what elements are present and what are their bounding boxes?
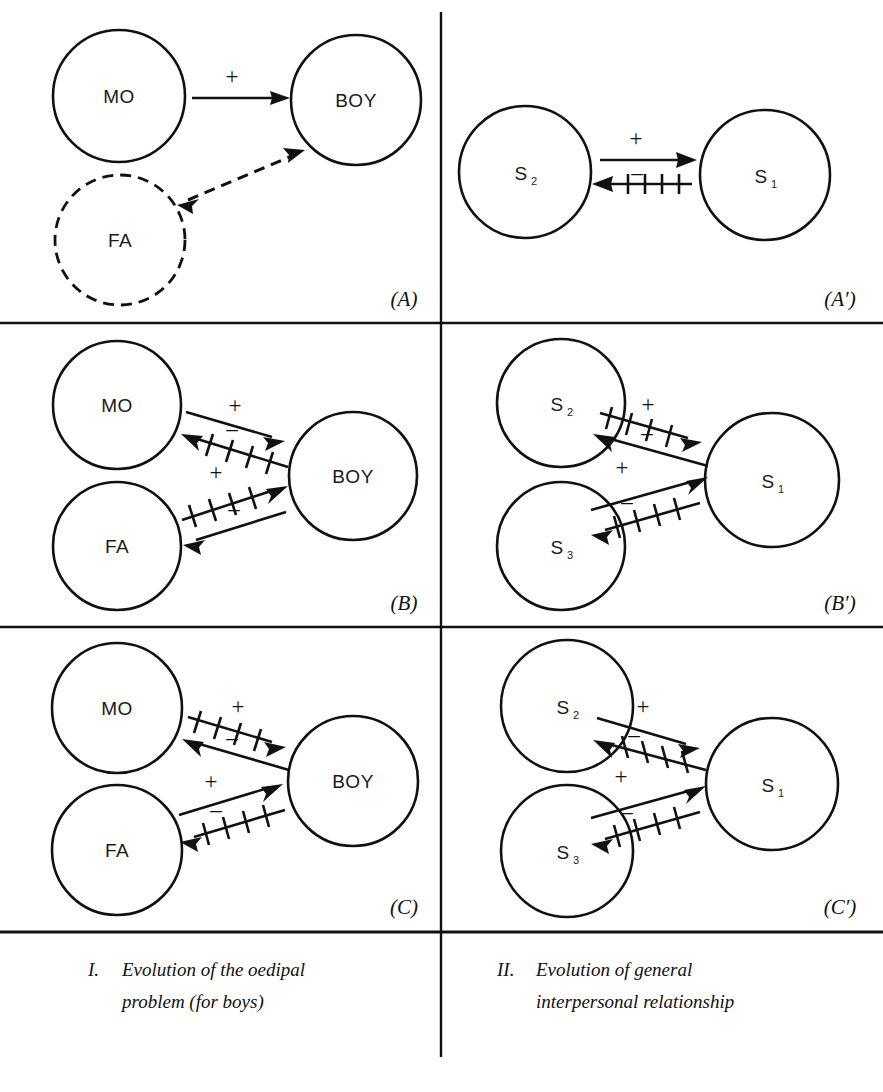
arrow-head	[592, 176, 613, 192]
node-boy[interactable]: BOY	[288, 716, 418, 846]
node-label: S	[556, 842, 569, 863]
arrow-head	[182, 739, 204, 757]
figure-canvas: MO BOY FA + (A) S 2	[0, 0, 883, 1092]
node-label: S	[556, 697, 569, 718]
panel-c: MO FA BOY + –	[52, 643, 418, 919]
caption-number: I.	[87, 959, 99, 980]
node-label: S	[761, 471, 774, 492]
node-s1[interactable]: S 1	[705, 413, 839, 547]
link-boy-fa-negative: –	[180, 797, 285, 852]
arrow-head	[183, 540, 205, 555]
sign-plus: +	[630, 126, 643, 151]
hatch-mark	[662, 746, 668, 768]
link-mo-boy-positive: +	[192, 64, 290, 105]
arrow-head	[684, 786, 706, 804]
node-mo[interactable]: MO	[53, 30, 185, 162]
panel-b-prime: S 2 S 3 S 1 +	[497, 339, 856, 615]
hatch-mark	[666, 425, 672, 447]
arrow-head	[180, 837, 202, 852]
panel-a-prime: S 2 S 1 + – (A′)	[459, 106, 856, 311]
sign-plus: +	[229, 393, 242, 418]
node-s2[interactable]: S 2	[501, 640, 633, 772]
panel-label-a-prime: (A′)	[824, 287, 855, 311]
sign-plus: +	[226, 64, 239, 89]
arrow-shaft-dashed	[188, 155, 294, 200]
panel-label-c-prime: (C′)	[824, 895, 857, 919]
arrow-shaft	[179, 788, 268, 815]
node-label: MO	[103, 86, 135, 107]
sign-minus: –	[640, 420, 653, 445]
caption-line-2: interpersonal relationship	[536, 991, 734, 1012]
sign-minus: –	[627, 722, 640, 747]
arrow-head	[270, 91, 290, 105]
caption-number: II.	[496, 959, 514, 980]
arrow-head	[263, 437, 285, 451]
caption-column-right: II. Evolution of general interpersonal r…	[496, 959, 734, 1012]
node-label: FA	[105, 536, 129, 557]
sign-minus: –	[620, 799, 633, 824]
sign-minus: –	[227, 496, 240, 521]
node-label: S	[754, 166, 767, 187]
panel-a: MO BOY FA + (A)	[53, 30, 421, 311]
node-label: BOY	[332, 466, 374, 487]
sign-plus: +	[642, 392, 655, 417]
node-s3[interactable]: S 3	[501, 785, 633, 917]
panel-label-b-prime: (B′)	[824, 591, 855, 615]
caption-line-2: problem (for boys)	[120, 991, 264, 1013]
node-label-subscript: 2	[531, 175, 537, 187]
panel-label-c: (C)	[390, 895, 418, 919]
node-s1[interactable]: S 1	[700, 110, 830, 240]
link-fa-boy-positive: +	[179, 769, 283, 815]
arrow-head	[680, 438, 702, 452]
node-label: S	[550, 537, 563, 558]
arrow-head	[678, 744, 700, 758]
hatch-mark	[194, 711, 201, 733]
node-s2[interactable]: S 2	[497, 339, 625, 467]
node-label-subscript: 3	[567, 549, 573, 561]
sign-plus: +	[205, 769, 218, 794]
node-label: MO	[101, 395, 133, 416]
link-fa-boy-dashed	[177, 148, 305, 214]
node-fa[interactable]: FA	[52, 785, 182, 915]
node-label-subscript: 2	[573, 709, 579, 721]
caption-column-left: I. Evolution of the oedipal problem (for…	[87, 959, 305, 1013]
node-mo[interactable]: MO	[52, 643, 182, 773]
node-label: BOY	[332, 771, 374, 792]
node-label-subscript: 1	[771, 178, 777, 190]
node-s2[interactable]: S 2	[459, 106, 591, 238]
node-s3[interactable]: S 3	[497, 482, 625, 610]
node-fa[interactable]: FA	[53, 482, 181, 610]
node-label-subscript: 1	[778, 483, 784, 495]
link-s2-s1-positive: +	[600, 126, 697, 168]
sign-minus: –	[225, 416, 238, 441]
node-mo[interactable]: MO	[53, 341, 181, 469]
node-label: MO	[101, 698, 133, 719]
node-boy[interactable]: BOY	[291, 35, 421, 165]
arrow-head	[266, 486, 288, 504]
hatch-mark	[254, 729, 261, 751]
node-label: S	[514, 163, 527, 184]
node-label: S	[761, 775, 774, 796]
panel-label-b: (B)	[391, 591, 418, 615]
arrow-shaft	[196, 512, 286, 540]
node-label: FA	[105, 840, 129, 861]
sign-plus: +	[615, 764, 628, 789]
node-label: BOY	[335, 90, 377, 111]
node-label-subscript: 3	[573, 854, 579, 866]
panel-b: MO FA BOY + –	[53, 341, 417, 615]
sign-minus: –	[630, 160, 643, 185]
node-fa[interactable]: FA	[55, 175, 185, 305]
arrow-head	[264, 742, 286, 757]
sign-plus: +	[637, 694, 650, 719]
node-label: S	[550, 394, 563, 415]
node-label-subscript: 1	[778, 787, 784, 799]
sign-plus: +	[232, 694, 245, 719]
node-boy[interactable]: BOY	[289, 412, 417, 540]
panel-label-a: (A)	[391, 287, 418, 311]
sign-plus: +	[616, 455, 629, 480]
hatch-mark	[206, 434, 213, 456]
node-s1[interactable]: S 1	[706, 718, 838, 850]
link-boy-fa-negative: –	[183, 496, 286, 555]
caption-line-1: Evolution of the oedipal	[121, 959, 305, 980]
arrow-shaft	[591, 481, 694, 510]
